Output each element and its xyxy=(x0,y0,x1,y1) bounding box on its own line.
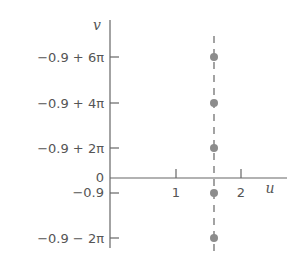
tick-label-v-0: 0 xyxy=(96,170,104,185)
tick-label-v-6pi: −0.9 + 6π xyxy=(37,50,104,65)
point-neg2pi xyxy=(210,234,218,242)
u-ticks xyxy=(176,169,241,178)
tick-label-u-1: 1 xyxy=(172,185,180,200)
point-2pi xyxy=(210,144,218,152)
point-neg09 xyxy=(210,189,218,197)
tick-label-v-2pi: −0.9 + 2π xyxy=(37,141,104,156)
uv-plot: −0.9 + 6π −0.9 + 4π −0.9 + 2π 0 −0.9 −0.… xyxy=(0,0,302,265)
tick-label-v-4pi: −0.9 + 4π xyxy=(37,96,104,111)
tick-label-u-2: 2 xyxy=(237,185,245,200)
tick-label-v-neg2pi: −0.9 − 2π xyxy=(37,231,104,246)
tick-label-v-neg09: −0.9 xyxy=(72,185,104,200)
point-4pi xyxy=(210,99,218,107)
v-axis-label: v xyxy=(93,17,101,33)
point-6pi xyxy=(210,53,218,61)
v-ticks xyxy=(110,57,119,238)
u-axis-label: u xyxy=(265,180,274,196)
